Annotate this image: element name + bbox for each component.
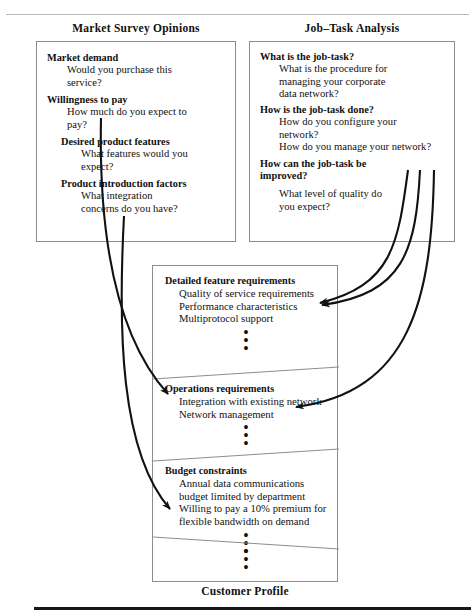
group-what-is-the-job-task: What is the job-task? What is the proced… (260, 51, 455, 100)
panel-market-survey-opinions: Market demand Would you purchase this se… (36, 41, 236, 242)
group-detail: What features would you expect? (61, 148, 233, 173)
group-product-introduction-factors: Product introduction factors What integr… (61, 178, 237, 215)
group-heading: Market demand (47, 52, 232, 64)
section-heading: Detailed feature requirements (153, 275, 339, 287)
group-heading: Desired product features (61, 136, 233, 148)
customer-profile-caption: Customer Profile (152, 585, 338, 597)
group-desired-product-features: Desired product features What features w… (61, 136, 233, 173)
group-how-can-the-job-task-be-improved: How can the job-task be improved? What l… (260, 158, 450, 213)
group-detail: What integration concerns do you have? (61, 190, 237, 215)
bottom-rule (34, 607, 471, 610)
section-divider (153, 364, 339, 382)
section-items: Annual data communications budget limite… (153, 477, 339, 527)
top-rule (6, 14, 469, 15)
diagram-canvas: Market Survey Opinions Job–Task Analysis… (0, 0, 475, 616)
group-heading: Willingness to pay (47, 94, 232, 106)
group-heading: What is the job-task? (260, 51, 455, 63)
section-items: Quality of service requirements Performa… (153, 287, 339, 325)
vertical-ellipsis-icon: ••• (153, 424, 339, 448)
panel-job-task-analysis: What is the job-task? What is the proced… (249, 41, 455, 242)
section-heading: Operations requirements (153, 383, 339, 395)
group-detail: What level of quality do you expect? (260, 182, 450, 213)
section-divider (153, 534, 339, 552)
vertical-ellipsis-icon: ••• (153, 329, 339, 353)
section-heading: Budget constraints (153, 465, 339, 477)
group-detail: What is the procedure for managing your … (260, 63, 455, 100)
group-willingness-to-pay: Willingness to pay How much do you expec… (47, 94, 232, 131)
group-heading: How can the job-task be improved? (260, 158, 450, 182)
group-detail: How do you configure your network? How d… (260, 116, 456, 153)
column-title-job-task-analysis: Job–Task Analysis (249, 22, 455, 34)
section-detailed-feature-requirements: Detailed feature requirements Quality of… (153, 275, 339, 353)
section-divider (153, 446, 339, 464)
group-detail: How much do you expect to pay? (47, 106, 232, 131)
column-title-market-survey: Market Survey Opinions (36, 22, 236, 34)
section-operations-requirements: Operations requirements Integration with… (153, 383, 339, 448)
section-items: Integration with existing network Networ… (153, 395, 339, 420)
group-market-demand: Market demand Would you purchase this se… (47, 52, 232, 89)
group-heading: How is the job-task done? (260, 104, 456, 116)
group-heading: Product introduction factors (61, 178, 237, 190)
panel-customer-profile: Detailed feature requirements Quality of… (152, 265, 338, 582)
group-detail: Would you purchase this service? (47, 64, 232, 89)
group-how-is-the-job-task-done: How is the job-task done? How do you con… (260, 104, 456, 153)
